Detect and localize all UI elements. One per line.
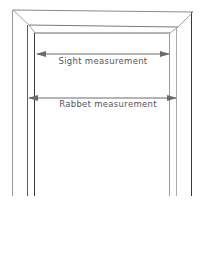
sight-measurement: Sight measurement <box>37 54 169 66</box>
frame-diagram: Sight measurement Rabbet measurement <box>0 0 206 268</box>
rabbet-measurement: Rabbet measurement <box>29 98 176 109</box>
rabbet-label: Rabbet measurement <box>59 99 157 109</box>
rabbet-edge <box>28 25 179 196</box>
corner-miters <box>13 10 193 33</box>
sight-label: Sight measurement <box>59 56 148 66</box>
